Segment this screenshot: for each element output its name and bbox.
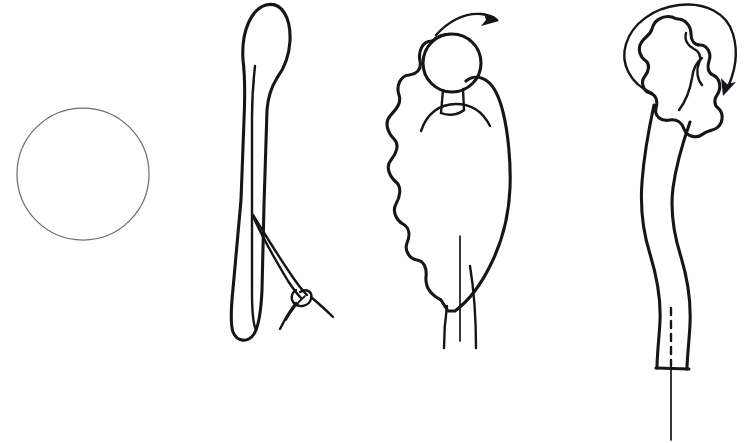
illustration-canvas bbox=[0, 0, 747, 443]
panel-1-region bbox=[5, 95, 165, 255]
figure-root bbox=[0, 0, 747, 443]
panel-4-curved-tube-with-flower-head bbox=[600, 0, 747, 443]
panel-1-plain-circle bbox=[5, 95, 165, 255]
panel-3-lobed-mass-with-nodule bbox=[380, 0, 540, 350]
clamped-base bbox=[656, 368, 689, 369]
panel-2-elongated-body-with-suture bbox=[210, 0, 350, 360]
